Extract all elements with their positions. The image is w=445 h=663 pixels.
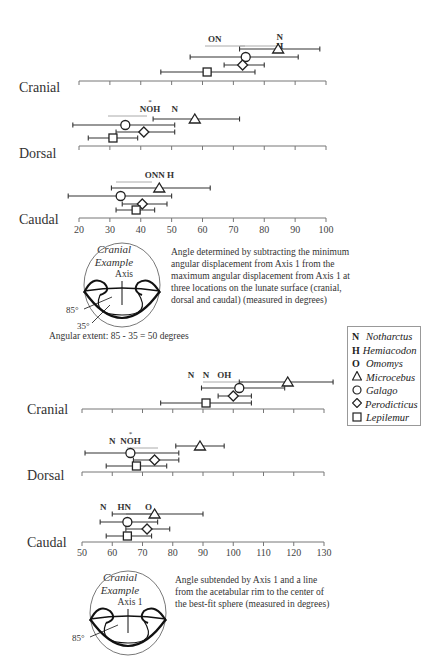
square-marker	[123, 532, 131, 540]
circle-marker	[123, 518, 132, 527]
group-label: Cranial	[19, 80, 60, 95]
errorbar-microcebus	[240, 44, 320, 53]
tick-label: 40	[136, 224, 146, 235]
legend-label: Hemiacodon	[363, 345, 417, 356]
legend: NNotharctusHHemiacodonOOmomysMicrocebusG…	[347, 326, 421, 426]
errorbar-perodicticus	[122, 199, 167, 209]
group-label: Caudal	[19, 212, 59, 227]
group-label: Caudal	[27, 535, 67, 550]
group-label: Dorsal	[19, 146, 56, 161]
errorbar-perodicticus	[224, 60, 264, 70]
errorbar-galago	[85, 449, 179, 458]
group-caudal: CaudalONN H	[19, 170, 326, 227]
axis-label: Axis 1	[117, 597, 142, 607]
square-marker	[109, 134, 117, 142]
tick-label: 100	[226, 547, 241, 558]
errorbar-lepilemur	[161, 399, 252, 407]
significance-asterisk: *	[148, 98, 152, 106]
fossil-label: ON	[208, 34, 222, 44]
tick-label: 90	[198, 547, 208, 558]
tick-label: 70	[228, 224, 238, 235]
legend-item-hemiacodon: HHemiacodon	[352, 344, 416, 358]
diamond-marker	[142, 524, 152, 534]
legend-letter: H	[352, 345, 360, 356]
tick-label: 80	[168, 547, 178, 558]
chart-rim-angle: CranialNNOHDorsalNNOH*CaudalNHNO50607080…	[27, 370, 333, 558]
errorbar-perodicticus	[218, 391, 251, 401]
cranial-example-diagram: CranialExampleAxis85°35°	[66, 243, 160, 331]
errorbar-galago	[190, 53, 298, 62]
diamond-marker	[139, 127, 149, 137]
errorbar-lepilemur	[88, 134, 137, 142]
errorbar-lepilemur	[116, 206, 155, 214]
tick-label: 80	[259, 224, 269, 235]
tick-label: 120	[286, 547, 301, 558]
legend-item-notharctus: NNotharctus	[352, 330, 416, 344]
legend-letter: O	[352, 358, 363, 369]
group-label: Dorsal	[27, 468, 64, 483]
fossil-label: OH	[217, 370, 231, 380]
square-marker	[203, 68, 211, 76]
legend-item-omomys: OOmomys	[352, 357, 416, 371]
tick-label: 60	[198, 224, 208, 235]
errorbar-perodicticus	[126, 524, 170, 534]
fossil-label: N	[203, 370, 210, 380]
errorbar-lepilemur	[161, 68, 255, 76]
legend-label: Galago	[366, 385, 398, 396]
errorbar-microcebus	[153, 114, 239, 123]
group-dorsal: DorsalNOH*N	[19, 98, 326, 161]
fossil-label: ONN H	[145, 170, 174, 180]
tick-label: 100	[319, 224, 334, 235]
group-dorsal: DorsalNNOH*	[27, 430, 324, 483]
legend-label: Microcebus	[366, 372, 415, 383]
errorbar-microcebus	[239, 377, 333, 386]
axis-label: Axis	[115, 269, 133, 279]
diagram-title: Example	[94, 256, 134, 268]
top-caption: Angle determined by subtracting the mini…	[171, 246, 351, 306]
errorbar-galago	[201, 384, 284, 393]
square-marker	[132, 462, 140, 470]
errorbar-galago	[73, 121, 175, 130]
triangle-icon	[352, 371, 363, 383]
angular-extent-note: Angular extent: 85 - 35 = 50 degrees	[49, 330, 249, 342]
cranial-example-diagram: CranialExampleAxis 185°	[72, 571, 166, 655]
tick-label: 90	[290, 224, 300, 235]
errorbar-lepilemur	[106, 532, 151, 540]
fossil-label: N	[100, 502, 107, 512]
square-marker	[202, 399, 210, 407]
legend-item-galago: Galago	[352, 384, 416, 398]
group-cranial: CranialNNOH	[27, 370, 333, 417]
diagram-title: Example	[100, 584, 140, 596]
bottom-caption: Angle subtended by Axis 1 and a line fro…	[175, 574, 335, 610]
legend-label: Lepilemur	[366, 412, 409, 423]
fossil-label: O	[145, 502, 152, 512]
legend-letter: N	[352, 331, 363, 342]
group-caudal: CaudalNHNO	[27, 502, 324, 550]
legend-label: Omomys	[366, 358, 403, 369]
group-label: Cranial	[27, 402, 68, 417]
legend-item-perodicticus: Perodicticus	[352, 398, 416, 412]
diamond-marker	[228, 391, 238, 401]
group-cranial: CranialONNH	[19, 32, 326, 95]
diagram-title: Cranial	[103, 571, 137, 583]
legend-label: Perodicticus	[365, 399, 418, 410]
chart-angular-extent: CranialONNHDorsalNOH*NCaudalONN H2030405…	[19, 32, 334, 235]
fossil-label: N	[109, 436, 116, 446]
angle-label: 85°	[72, 633, 85, 643]
legend-label: Notharctus	[366, 331, 412, 342]
circle-marker	[235, 384, 244, 393]
errorbar-galago	[68, 192, 171, 201]
circle-marker	[116, 192, 125, 201]
square-marker	[132, 206, 140, 214]
tick-label: 130	[317, 547, 332, 558]
errorbar-microcebus	[111, 183, 210, 192]
diagram-title: Cranial	[97, 243, 131, 255]
tick-label: 50	[77, 547, 87, 558]
legend-item-lepilemur: Lepilemur	[352, 411, 416, 425]
errorbar-microcebus	[176, 441, 224, 450]
circle-marker	[121, 121, 130, 130]
fossil-label: N	[188, 370, 195, 380]
angle-label: 85°	[66, 305, 79, 315]
tick-label: 30	[105, 224, 115, 235]
fossil-label: N	[171, 104, 178, 114]
